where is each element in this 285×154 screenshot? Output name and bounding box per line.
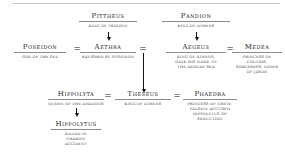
person-name: Aethra [80, 43, 136, 53]
person-pandion: Pandion King of Athens [162, 12, 230, 29]
person-theseus: Theseus King of Athens [115, 90, 171, 107]
person-hippolytus: Hippolytus Killed in chariot accident [51, 120, 101, 147]
person-name: Hippolyta [48, 90, 104, 100]
person-description: Princess of Colchis, sorceress, lover of… [233, 55, 281, 75]
person-aegeus: Aegeus King of Athens, gave his name to … [166, 43, 226, 70]
person-name: Pittheus [79, 12, 137, 22]
person-description: King of Athens [162, 24, 230, 29]
descent-line-theseus [143, 53, 144, 90]
person-description: Ravished by Poseidon [80, 55, 136, 60]
marriage-symbol: = [104, 91, 112, 100]
person-description: Queen of the Amazons [48, 102, 104, 107]
person-hippolyta: Hippolyta Queen of the Amazons [48, 90, 104, 107]
person-name: Aegeus [166, 43, 226, 53]
person-name: Phaedra [183, 90, 237, 100]
person-name: Theseus [115, 90, 171, 100]
person-phaedra: Phaedra Princess of Crete, falsely accus… [183, 90, 237, 122]
arrow-down-icon [107, 37, 111, 41]
person-name: Hippolytus [51, 120, 101, 130]
arrow-down-icon [195, 37, 199, 41]
person-name: Poseidon [14, 43, 66, 53]
person-name: Pandion [162, 12, 230, 22]
marriage-symbol: = [139, 44, 147, 53]
person-description: King of Troizen [79, 24, 137, 29]
person-description: King of Athens [115, 102, 171, 107]
person-description: Killed in chariot accident [56, 132, 96, 147]
person-description: King of Athens, gave his name to the Aeg… [171, 55, 221, 70]
person-pittheus: Pittheus King of Troizen [79, 12, 137, 29]
marriage-symbol: = [173, 91, 181, 100]
arrow-down-icon [75, 113, 79, 117]
person-name: Medea [232, 43, 282, 53]
top-divider [12, 3, 280, 4]
person-description: God of the sea [14, 55, 66, 60]
person-description: Princess of Crete, falsely accused Hippo… [187, 102, 233, 122]
person-medea: Medea Princess of Colchis, sorceress, lo… [232, 43, 282, 75]
person-aethra: Aethra Ravished by Poseidon [80, 43, 136, 60]
person-poseidon: Poseidon God of the sea [14, 43, 66, 60]
